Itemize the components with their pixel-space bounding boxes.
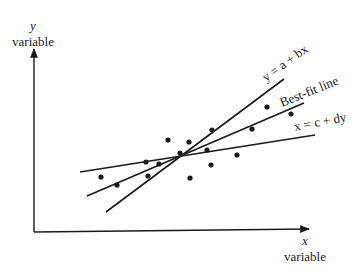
y-axis-symbol: y xyxy=(28,18,36,33)
y-axis-label: variable xyxy=(12,34,54,49)
regression-diagram: y variable x variable y = a + bx Best-fi… xyxy=(0,0,359,274)
data-points xyxy=(98,104,293,187)
data-point xyxy=(177,150,182,155)
data-point xyxy=(208,162,213,167)
label-y-on-x: y = a + bx xyxy=(259,41,311,85)
data-point xyxy=(187,175,192,180)
x-axis-symbol: x xyxy=(301,233,308,248)
data-point xyxy=(156,161,161,166)
data-point xyxy=(145,173,150,178)
data-point xyxy=(288,111,293,116)
data-point xyxy=(186,139,191,144)
label-x-on-y: x = c + dy xyxy=(293,109,348,134)
line-y-on-x xyxy=(106,79,284,212)
data-point xyxy=(165,137,170,142)
data-point xyxy=(249,126,254,131)
data-point xyxy=(114,182,119,187)
data-point xyxy=(209,127,214,132)
x-axis xyxy=(34,229,309,232)
label-best-fit: Best-fit line xyxy=(278,73,341,110)
data-point xyxy=(264,104,269,109)
data-point xyxy=(143,159,148,164)
data-point xyxy=(204,147,209,152)
data-point xyxy=(234,152,239,157)
line-x-on-y xyxy=(80,135,315,172)
data-point xyxy=(98,174,103,179)
line-best-fit xyxy=(87,103,304,196)
x-axis-label: variable xyxy=(284,249,326,264)
